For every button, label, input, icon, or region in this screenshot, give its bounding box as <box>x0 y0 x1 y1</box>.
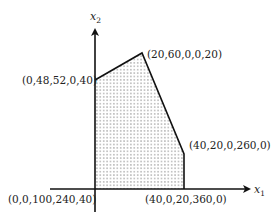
x1-axis-label: x1 <box>254 183 265 198</box>
vertex-label-origin: (0,0,100,240,40) <box>8 193 96 205</box>
vertex-label-right-lower: (40,0,20,360,0) <box>145 193 227 205</box>
vertex-label-left-top: (0,48,52,0,40) <box>22 74 97 86</box>
vertex-label-top: (20,60,0,0,20) <box>147 48 222 60</box>
feasible-region-diagram: x1 x2 (0,48,52,0,40) (20,60,0,0,20) (40,… <box>0 0 280 222</box>
x2-axis-label: x2 <box>90 10 101 25</box>
vertex-label-right-upper: (40,20,0,260,0) <box>189 139 271 151</box>
